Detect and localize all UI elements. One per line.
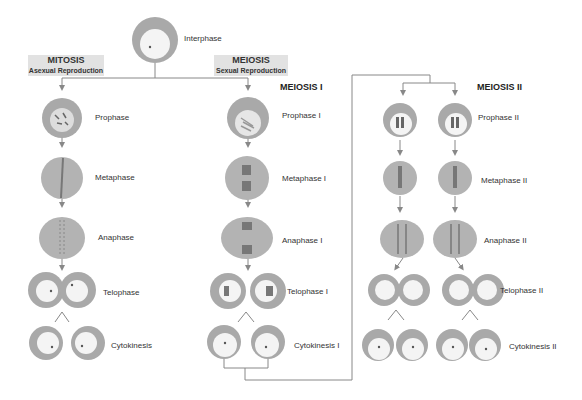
mitosis-tag: MITOSIS Asexual Reproduction <box>28 55 104 76</box>
mitosis-title: MITOSIS <box>28 55 104 66</box>
mitosis-stage-label: Cytokinesis <box>111 341 152 350</box>
meiosis1-stage-label: Anaphase I <box>282 236 322 245</box>
mitosis-telophase-cell <box>28 272 96 308</box>
meiosis1-telophase-cell <box>210 273 286 309</box>
meiosis2-metaphase-cells <box>383 161 472 195</box>
meiosis1-heading: MEIOSIS I <box>280 82 323 92</box>
meiosis2-heading: MEIOSIS II <box>477 82 522 92</box>
meiosis1-stage-label: Prophase I <box>282 111 321 120</box>
meiosis1-metaphase-cell <box>225 156 269 200</box>
meiosis1-stage-label: Metaphase I <box>282 174 326 183</box>
mitosis-stage-label: Anaphase <box>98 233 134 242</box>
meiosis2-anaphase-cells <box>380 220 477 258</box>
meiosis2-stage-label: Metaphase II <box>481 176 527 185</box>
meiosis1-cytokinesis-cells <box>207 325 285 359</box>
interphase-label: Interphase <box>184 34 222 43</box>
mitosis-subtitle: Asexual Reproduction <box>28 66 104 75</box>
meiosis2-cytokinesis-cells <box>362 329 501 361</box>
mitosis-stage-label: Prophase <box>95 113 129 122</box>
meiosis2-stage-label: Prophase II <box>478 113 519 122</box>
meiosis-tag: MEIOSIS Sexual Reproduction <box>214 55 288 76</box>
mitosis-metaphase-cell <box>41 157 83 199</box>
meiosis1-anaphase-cell <box>221 217 273 259</box>
meiosis2-telophase-cells <box>368 274 504 306</box>
meiosis-subtitle: Sexual Reproduction <box>214 66 288 75</box>
mitosis-prophase-cell <box>42 98 82 138</box>
mitosis-stage-label: Metaphase <box>95 173 135 182</box>
meiosis-title: MEIOSIS <box>214 55 288 66</box>
meiosis2-stage-label: Anaphase II <box>484 236 527 245</box>
meiosis1-stage-label: Telophase I <box>287 287 328 296</box>
meiosis1-stage-label: Cytokinesis I <box>294 341 339 350</box>
meiosis2-stage-label: Cytokinesis II <box>509 342 557 351</box>
interphase-cell <box>132 17 178 63</box>
meiosis1-prophase-cell <box>227 97 269 139</box>
meiosis2-stage-label: Telophase II <box>500 286 543 295</box>
mitosis-anaphase-cell <box>39 217 85 259</box>
mitosis-cytokinesis-cells <box>29 326 105 360</box>
meiosis2-prophase-cells <box>383 103 472 137</box>
mitosis-stage-label: Telophase <box>103 288 139 297</box>
